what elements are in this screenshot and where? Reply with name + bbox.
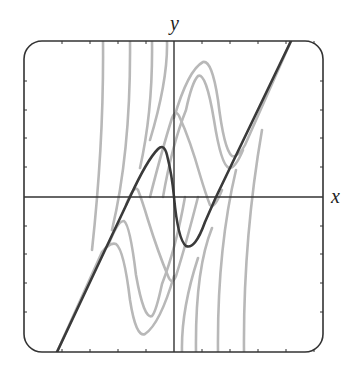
curve-family-top-3 (150, 113, 222, 206)
x-axis-label: x (330, 185, 340, 207)
curve-asymptote-right-2 (196, 228, 212, 352)
curve-family-bottom-1 (57, 244, 174, 352)
curve-family-top-1 (174, 41, 291, 156)
curve-asymptote-left-3 (140, 41, 152, 168)
chart-canvas: y x (0, 0, 357, 370)
curve-asymptote-left-1 (92, 41, 103, 250)
y-axis-label: y (168, 12, 179, 35)
curve-family-bottom-3 (126, 189, 198, 281)
curve-asymptote-right-4 (244, 130, 262, 352)
curve-family-top-2 (163, 76, 243, 197)
